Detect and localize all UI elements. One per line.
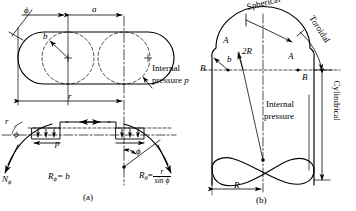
caption-a: (a) (83, 193, 93, 202)
pressure-symbol-p: p (184, 75, 189, 85)
dimension-r-label: r (68, 92, 72, 101)
r-tick-label: r (5, 117, 9, 126)
cylindrical-extent-arrow (314, 70, 332, 180)
pressure-p-label: p (55, 139, 60, 148)
membrane-curve-right (124, 124, 168, 165)
cylindrical-label: Cylindrical (332, 81, 341, 122)
hoop-force-arrow-right (80, 122, 116, 128)
internal-pressure-label-b-line1: Internal (266, 100, 294, 109)
internal-pressure-label-b-line2: pressure (264, 112, 294, 121)
point-A-left-label: A (223, 36, 229, 45)
r-theta-equation: Rθ=rsin ϕ (139, 168, 171, 185)
hoop-force-arrow-left (60, 122, 100, 128)
point-A-right-label: A (288, 52, 294, 61)
phi-center-label: ϕ (136, 147, 141, 156)
dimension-b-label: b (43, 32, 48, 41)
r-phi-equation: Rϕ= b (48, 172, 70, 182)
internal-pressure-label-a-line2: pressure p (152, 76, 189, 85)
panel-b-radius-b-arrow (214, 58, 228, 70)
spherical-span-arrow (246, 14, 292, 42)
figure-root: ϕ a b r Internal pressure p p Nϕ ϕ r ϕ R… (0, 0, 356, 211)
two-R-label: 2R (242, 47, 252, 56)
n-subscript-phi: ϕ (8, 178, 11, 185)
dimension-b-arrow (50, 41, 68, 58)
phi-left-label: ϕ (14, 130, 19, 139)
internal-pressure-leader-a (143, 77, 152, 88)
panel-b-2R-leader (238, 52, 265, 162)
internal-pressure-label-a-line1: Internal (152, 64, 180, 73)
point-B-right-label: B (302, 73, 308, 82)
point-B-left-label: B (200, 64, 206, 73)
n-phi-force-arrow (5, 145, 18, 173)
dimension-a-label: a (92, 5, 97, 14)
panel-b-b-label: b (227, 55, 232, 64)
r-phi-value: = b (57, 171, 70, 181)
caption-b: (b) (256, 196, 267, 205)
panel-a-center-marks (65, 55, 152, 62)
panel-a-construction-lines (18, 16, 68, 105)
panel-a-dashed-circles (42, 32, 150, 84)
r-theta-denominator: sin ϕ (153, 177, 172, 185)
panel-b-dimension-R-label: R (234, 181, 240, 190)
phi-center-angle (124, 149, 136, 154)
pressure-word: pressure (152, 75, 184, 85)
n-phi-label: Nϕ (2, 175, 11, 185)
phi-top-label: ϕ (24, 6, 29, 15)
r-theta-fraction: rsin ϕ (153, 168, 172, 185)
r-theta-leader (122, 140, 160, 169)
phi-top-leader (9, 10, 64, 40)
